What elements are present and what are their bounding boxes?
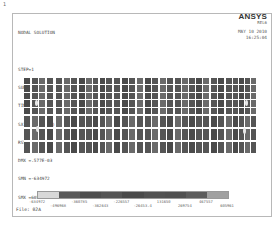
model-block	[56, 116, 85, 153]
model-block	[233, 78, 256, 114]
model-block	[86, 78, 112, 114]
mesh-element	[203, 142, 209, 153]
mesh-element	[245, 85, 250, 91]
mesh-element	[86, 142, 92, 153]
mesh-element	[47, 85, 53, 91]
info-title: NODAL SOLUTION	[18, 30, 55, 36]
mesh-element	[203, 78, 209, 84]
mesh-element	[56, 100, 62, 106]
mesh-element	[56, 85, 62, 91]
mesh-element	[129, 93, 135, 99]
mesh-element	[189, 93, 195, 99]
model-block	[233, 116, 256, 153]
mesh-element	[47, 108, 53, 114]
mesh-element	[218, 78, 224, 84]
mesh-element	[106, 93, 112, 99]
mesh-element	[152, 142, 158, 153]
mesh-element	[218, 116, 224, 127]
mesh-element	[86, 85, 92, 91]
mesh-element	[203, 85, 209, 91]
mesh-element	[93, 78, 99, 84]
mesh-element	[189, 116, 195, 127]
mesh-element	[167, 116, 173, 127]
mesh-element	[145, 93, 151, 99]
mesh-element	[226, 93, 232, 99]
mesh-element	[211, 142, 217, 153]
mesh-element	[32, 142, 38, 153]
mesh-element	[137, 85, 143, 91]
mesh-element	[245, 116, 250, 127]
mesh-element	[233, 129, 238, 140]
mesh-element	[137, 93, 143, 99]
mesh-element	[160, 85, 166, 91]
mesh-element	[211, 85, 217, 91]
mesh-element	[182, 116, 188, 127]
legend-value: -634972	[29, 199, 45, 204]
contour-model[interactable]	[24, 78, 256, 153]
mesh-element	[71, 93, 77, 99]
stress-hotspot	[245, 100, 248, 106]
mesh-element	[189, 108, 195, 114]
mesh-element	[47, 100, 53, 106]
mesh-element	[122, 85, 128, 91]
mesh-element	[129, 85, 135, 91]
mesh-element	[39, 100, 45, 106]
mesh-element	[106, 85, 112, 91]
mesh-element	[145, 85, 151, 91]
mesh-element	[56, 142, 62, 153]
mesh-element	[106, 78, 112, 84]
mesh-element	[167, 100, 173, 106]
mesh-element	[152, 85, 158, 91]
mesh-element	[24, 85, 30, 91]
mesh-element	[79, 100, 85, 106]
mesh-element	[24, 142, 30, 153]
mesh-element	[106, 100, 112, 106]
mesh-element	[114, 116, 120, 127]
mesh-element	[167, 129, 173, 140]
mesh-element	[239, 78, 244, 84]
mesh-element	[79, 108, 85, 114]
mesh-element	[152, 78, 158, 84]
mesh-element	[86, 93, 92, 99]
mesh-element	[106, 142, 112, 153]
date: MAY 10 2010	[238, 29, 267, 35]
legend-segment	[186, 192, 207, 198]
mesh-element	[160, 116, 166, 127]
model-block	[114, 116, 143, 153]
mesh-element	[218, 129, 224, 140]
mesh-element	[233, 78, 238, 84]
mesh-element	[79, 85, 85, 91]
mesh-element	[114, 108, 120, 114]
mesh-element	[233, 108, 238, 114]
mesh-element	[106, 108, 112, 114]
mesh-element	[71, 116, 77, 127]
mesh-element	[71, 78, 77, 84]
mesh-element	[175, 78, 181, 84]
mesh-element	[218, 108, 224, 114]
mesh-element	[122, 78, 128, 84]
mesh-element	[245, 93, 250, 99]
mesh-element	[64, 85, 70, 91]
mesh-element	[100, 78, 106, 84]
legend-value: -226557	[113, 199, 129, 204]
mesh-element	[226, 142, 232, 153]
mesh-element	[86, 108, 92, 114]
mesh-element	[189, 129, 195, 140]
mesh-element	[86, 129, 92, 140]
mesh-element	[100, 116, 106, 127]
mesh-element	[47, 78, 53, 84]
mesh-element	[93, 116, 99, 127]
mesh-element	[152, 93, 158, 99]
mesh-element	[79, 142, 85, 153]
mesh-element	[196, 93, 202, 99]
legend-value: -362643	[92, 203, 108, 208]
mesh-element	[203, 129, 209, 140]
mesh-element	[175, 142, 181, 153]
mesh-element	[122, 129, 128, 140]
mesh-element	[251, 93, 256, 99]
mesh-element	[122, 93, 128, 99]
mesh-element	[167, 85, 173, 91]
mesh-element	[129, 78, 135, 84]
file-label: File: 02A	[16, 207, 41, 212]
mesh-element	[64, 142, 70, 153]
